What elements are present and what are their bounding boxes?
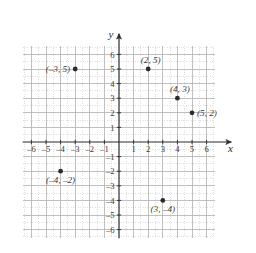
plotted-point[interactable]	[160, 198, 165, 203]
point-coordinate-label: (2, 5)	[141, 55, 161, 65]
point-coordinate-label: (3, –4)	[151, 204, 176, 214]
x-tick-label: –4	[55, 144, 65, 154]
point-coordinate-label: (5, 2)	[197, 108, 217, 118]
x-tick-label: 1	[131, 144, 135, 154]
coordinate-plane-figure: –6–5–4–3–2–1123456 –6–5–4–3–2–1123456 (–…	[0, 0, 256, 253]
y-tick-label: –2	[105, 166, 115, 176]
x-tick-label: 5	[190, 144, 194, 154]
y-tick-label: 6	[110, 50, 115, 60]
plotted-point[interactable]	[73, 67, 78, 72]
y-tick-label: 4	[110, 79, 115, 89]
y-tick-label: 1	[110, 123, 114, 133]
point-coordinate-label: (4, 3)	[170, 84, 190, 94]
x-tick-label: –2	[85, 144, 95, 154]
y-tick-label: 2	[110, 108, 114, 118]
plotted-point[interactable]	[58, 169, 63, 174]
point-coordinate-label: (–4, –2)	[46, 175, 75, 185]
x-tick-label: 4	[175, 144, 180, 154]
y-tick-label: –6	[105, 225, 115, 235]
coordinate-plane-svg: –6–5–4–3–2–1123456 –6–5–4–3–2–1123456 (–…	[0, 0, 256, 253]
y-tick-label: –1	[105, 152, 115, 162]
x-tick-label: 3	[161, 144, 165, 154]
x-axis-label: x	[227, 142, 233, 154]
point-coordinate-label: (–3, 5)	[46, 64, 71, 74]
y-axis-label: y	[108, 28, 114, 40]
plotted-point[interactable]	[146, 67, 151, 72]
x-tick-label: –6	[26, 144, 36, 154]
x-tick-label: –5	[41, 144, 51, 154]
x-tick-label: 6	[204, 144, 209, 154]
y-tick-label: –4	[105, 196, 115, 206]
x-axis-tick-labels: –6–5–4–3–2–1123456	[26, 144, 209, 154]
x-tick-label: 2	[146, 144, 150, 154]
plotted-point[interactable]	[175, 96, 180, 101]
y-tick-label: –3	[105, 181, 115, 191]
point-labels: (–3, 5)(2, 5)(4, 3)(5, 2)(–4, –2)(3, –4)	[46, 55, 217, 214]
y-tick-label: 5	[110, 64, 114, 74]
y-tick-label: 3	[110, 93, 114, 103]
plotted-point[interactable]	[190, 110, 195, 115]
x-tick-label: –3	[70, 144, 80, 154]
y-tick-label: –5	[105, 210, 115, 220]
